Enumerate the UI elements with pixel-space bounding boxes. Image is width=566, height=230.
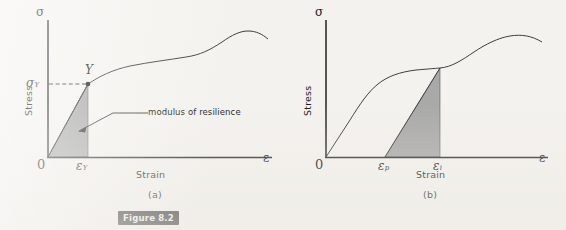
x-tick-epsilon-p-subscript-b: p — [385, 164, 390, 172]
annotation-modulus-of-resilience: modulus of resilience — [148, 108, 241, 117]
y-tick-sigma-y-a: σY — [26, 77, 39, 89]
y-axis-symbol-b: σ — [315, 6, 323, 18]
x-tick-epsilon-y-a: εY — [76, 160, 87, 172]
yield-point-label-a: Y — [85, 64, 93, 76]
x-tick-epsilon-i-b: εi — [433, 160, 442, 172]
x-axis-symbol-a: ε — [263, 152, 269, 164]
x-axis-symbol-b: ε — [539, 152, 545, 164]
panel-label-b: (b) — [423, 190, 437, 200]
x-axis-name-a: Strain — [136, 170, 165, 180]
y-tick-sigma-subscript-a: Y — [34, 81, 39, 89]
x-tick-epsilon-i-symbol-b: ε — [433, 159, 440, 173]
panel-label-a: (a) — [148, 190, 162, 200]
y-axis-name-b: Stress — [303, 86, 313, 116]
x-tick-epsilon-subscript-a: Y — [83, 164, 88, 172]
x-tick-epsilon-p-symbol-b: ε — [378, 159, 385, 173]
figure-caption-label: Figure 8.2 — [123, 213, 174, 223]
x-tick-epsilon-symbol-a: ε — [76, 159, 83, 173]
chart-panel-b: σ ε Stress Strain 0 εp εi (b) — [280, 0, 566, 205]
y-axis-name-a: Stress — [24, 86, 34, 116]
x-tick-epsilon-i-subscript-b: i — [440, 164, 442, 172]
figure-caption-badge: Figure 8.2 — [118, 211, 179, 225]
origin-label-a: 0 — [37, 158, 45, 171]
figure-page: σ ε Stress Strain 0 εY σY Y modulus of r… — [0, 0, 566, 230]
y-axis-symbol-a: σ — [36, 6, 44, 18]
chart-panel-a: σ ε Stress Strain 0 εY σY Y modulus of r… — [0, 0, 290, 205]
yield-point-marker-a — [86, 82, 91, 87]
origin-label-b: 0 — [315, 158, 323, 171]
x-tick-epsilon-p-b: εp — [378, 160, 389, 172]
